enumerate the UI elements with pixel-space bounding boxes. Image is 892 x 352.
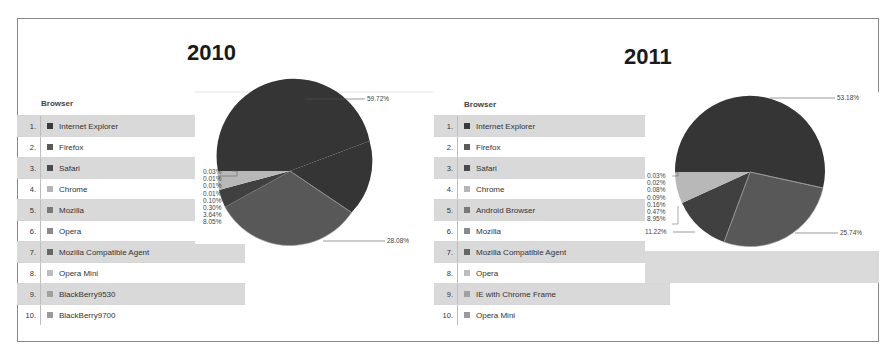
row-rank: 10.: [434, 311, 453, 320]
browser-name: Firefox: [476, 143, 500, 152]
column-divider: [40, 221, 41, 241]
column-divider: [457, 179, 458, 199]
legend-swatch-icon: [47, 207, 53, 213]
legend-swatch-icon: [464, 165, 470, 171]
column-divider: [40, 200, 41, 220]
pie-svg-2011: [645, 92, 879, 251]
pie-small-label: 0.16%: [647, 201, 665, 208]
legend-swatch-icon: [464, 291, 470, 297]
legend-swatch-icon: [47, 312, 53, 318]
legend-swatch-icon: [47, 228, 53, 234]
table-row[interactable]: 2.Firefox: [434, 136, 645, 157]
pie-svg-2010: [195, 92, 433, 244]
table-row[interactable]: 7.Mozilla Compatible Agent: [17, 241, 245, 262]
browser-name: Chrome: [476, 185, 504, 194]
pie-label-firefox-2010: 28.08%: [387, 237, 409, 244]
legend-swatch-icon: [464, 312, 470, 318]
pie-label-ie-2011: 53.18%: [837, 94, 859, 101]
browser-name: Internet Explorer: [59, 122, 118, 131]
table-row[interactable]: 4.Chrome: [434, 178, 645, 199]
browser-name: Mozilla: [59, 206, 84, 215]
row-rank: 9.: [434, 290, 453, 299]
row-rank: 3.: [434, 164, 453, 173]
column-divider: [40, 305, 41, 325]
legend-swatch-icon: [464, 270, 470, 276]
pie-label-firefox-2011: 25.74%: [840, 229, 862, 236]
table-row[interactable]: 6.Mozilla: [434, 220, 645, 241]
row-rank: 1.: [17, 122, 36, 131]
table-row[interactable]: 5.Mozilla: [17, 199, 195, 220]
pie-small-label: 0.03%: [203, 168, 221, 175]
pie-small-label: 8.95%: [647, 215, 665, 222]
browser-name: Android Browser: [476, 206, 535, 215]
chart-title-2010: 2010: [187, 40, 236, 66]
browser-name: IE with Chrome Frame: [476, 290, 556, 299]
browser-name: Chrome: [59, 185, 87, 194]
row-rank: 2.: [17, 143, 36, 152]
table-row[interactable]: 7.Mozilla Compatible Agent: [434, 241, 645, 262]
pie-small-label: 0.01%: [203, 182, 221, 189]
pie-small-label: 0.08%: [647, 186, 665, 193]
pie-small-label: 0.10%: [203, 197, 221, 204]
column-divider: [457, 305, 458, 325]
row-rank: 5.: [17, 206, 36, 215]
browser-name: Firefox: [59, 143, 83, 152]
legend-swatch-icon: [47, 123, 53, 129]
table-row[interactable]: 10.Opera Mini: [434, 304, 670, 325]
column-divider: [40, 263, 41, 283]
table-row[interactable]: 9.IE with Chrome Frame: [434, 283, 670, 304]
column-divider: [457, 263, 458, 283]
row-rank: 8.: [434, 269, 453, 278]
pie-small-label: 0.02%: [647, 179, 665, 186]
table-row[interactable]: 1.Internet Explorer: [17, 115, 195, 136]
pie-small-label: 0.30%: [203, 204, 221, 211]
legend-swatch-icon: [464, 249, 470, 255]
column-divider: [40, 284, 41, 304]
pie-small-label: 0.47%: [647, 208, 665, 215]
table-row[interactable]: 4.Chrome: [17, 178, 195, 199]
column-divider: [40, 158, 41, 178]
row-rank: 6.: [434, 227, 453, 236]
browser-name: BlackBerry9530: [59, 290, 115, 299]
column-divider: [40, 116, 41, 136]
browser-name: Internet Explorer: [476, 122, 535, 131]
legend-swatch-icon: [47, 165, 53, 171]
pie-chart-2010: 59.72% 28.08% 0.03%0.01%0.01%0.01%0.10%0…: [195, 92, 433, 244]
column-divider: [457, 137, 458, 157]
pie-label-safari-2011: 11.22%: [645, 228, 667, 235]
table-row[interactable]: 6.Opera: [17, 220, 195, 241]
legend-swatch-icon: [47, 270, 53, 276]
legend-swatch-icon: [464, 228, 470, 234]
column-divider: [40, 137, 41, 157]
table-row[interactable]: 8.Opera: [434, 262, 645, 283]
browser-name: Opera: [59, 227, 81, 236]
table-row[interactable]: 8.Opera Mini: [17, 262, 245, 283]
table-row[interactable]: 5.Android Browser: [434, 199, 645, 220]
column-divider: [457, 242, 458, 262]
browser-name: Opera: [476, 269, 498, 278]
table-row[interactable]: 1.Internet Explorer: [434, 115, 645, 136]
table-row[interactable]: 3.Safari: [17, 157, 195, 178]
row-rank: 4.: [17, 185, 36, 194]
pie-small-label: 0.01%: [203, 190, 221, 197]
table-row[interactable]: 10.BlackBerry9700: [17, 304, 245, 325]
row-rank: 9.: [17, 290, 36, 299]
browser-name: Safari: [476, 164, 497, 173]
legend-swatch-icon: [464, 144, 470, 150]
table-row[interactable]: 2.Firefox: [17, 136, 195, 157]
column-divider: [40, 242, 41, 262]
browser-name: BlackBerry9700: [59, 311, 115, 320]
table-row[interactable]: 3.Safari: [434, 157, 645, 178]
legend-swatch-icon: [464, 186, 470, 192]
row-rank: 4.: [434, 185, 453, 194]
chart-title-2011: 2011: [624, 44, 672, 70]
row-rank: 1.: [434, 122, 453, 131]
row-rank: 10.: [17, 311, 36, 320]
row-rank: 8.: [17, 269, 36, 278]
column-divider: [40, 179, 41, 199]
pie-small-label: 8.05%: [203, 218, 221, 225]
browser-name: Mozilla Compatible Agent: [59, 248, 149, 257]
row-rank: 6.: [17, 227, 36, 236]
legend-swatch-icon: [464, 123, 470, 129]
table-row[interactable]: 9.BlackBerry9530: [17, 283, 245, 304]
